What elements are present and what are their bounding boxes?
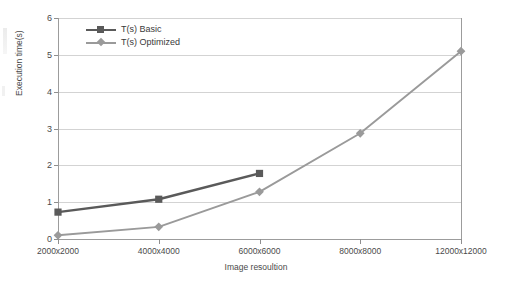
- y-axis-title: Execution time(s): [14, 30, 24, 96]
- series-lines: [58, 18, 462, 240]
- plot-area: 0123456 2000x20004000x40006000x60008000x…: [58, 18, 462, 240]
- scan-artifact-secondary: [2, 86, 5, 96]
- y-tick-label: 1: [47, 197, 52, 207]
- data-point-marker: [154, 222, 163, 231]
- y-tick-label: 0: [47, 234, 52, 244]
- data-point-marker: [155, 196, 162, 203]
- legend-marker-diamond-icon: [86, 37, 116, 47]
- legend-item-basic: T(s) Basic: [86, 24, 180, 34]
- legend-label-optimized: T(s) Optimized: [121, 37, 180, 47]
- execution-time-line-chart: Execution time(s) 0123456 2000x20004000x…: [0, 0, 512, 297]
- data-point-marker: [256, 170, 263, 177]
- y-tick-label: 5: [47, 50, 52, 60]
- y-tick-label: 4: [47, 87, 52, 97]
- chart-legend: T(s) Basic T(s) Optimized: [82, 22, 186, 50]
- series-line-basic: [58, 173, 260, 212]
- x-tick-label: 4000x4000: [138, 246, 180, 256]
- y-tick-label: 3: [47, 124, 52, 134]
- y-tick-label: 6: [47, 13, 52, 23]
- scan-artifact: [3, 28, 7, 54]
- data-point-marker: [255, 187, 264, 196]
- x-tick-label: 2000x2000: [37, 246, 79, 256]
- x-tick-label: 12000x12000: [435, 246, 487, 256]
- data-point-marker: [54, 209, 61, 216]
- x-tick-label: 8000x8000: [339, 246, 381, 256]
- legend-item-optimized: T(s) Optimized: [86, 37, 180, 47]
- series-line-optimized: [58, 51, 461, 235]
- legend-marker-square-icon: [86, 24, 116, 34]
- x-tick-label: 6000x6000: [238, 246, 280, 256]
- legend-label-basic: T(s) Basic: [121, 24, 162, 34]
- y-tick-label: 2: [47, 160, 52, 170]
- x-axis-title: Image resoultion: [0, 262, 512, 272]
